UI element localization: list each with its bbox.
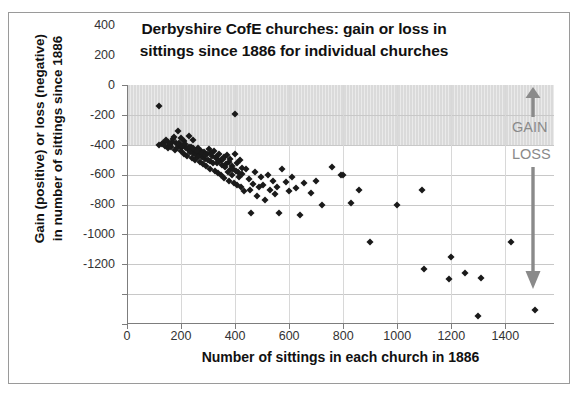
chart-figure: Derbyshire CofE churches: gain or loss i… <box>8 12 570 384</box>
y-tick <box>122 145 127 146</box>
data-point <box>300 179 307 186</box>
data-point <box>356 186 363 193</box>
y-tick <box>122 85 127 86</box>
y-tick-label--200: -200 <box>90 108 115 122</box>
y-axis-tick-labels: 4002000-200-400-600-800-1000-1200 <box>53 25 115 264</box>
gridline-x <box>235 85 236 324</box>
x-tick-label-800: 800 <box>333 329 354 343</box>
gridline-x <box>505 85 506 324</box>
data-point <box>329 164 336 171</box>
data-point <box>367 238 374 245</box>
x-tick-label-600: 600 <box>279 329 300 343</box>
data-point <box>264 171 271 178</box>
y-tick-label-400: 400 <box>94 18 115 32</box>
gridline-x <box>181 85 182 324</box>
data-point <box>475 312 482 319</box>
data-point <box>394 201 401 208</box>
data-point <box>292 185 299 192</box>
gridline-x <box>289 85 290 324</box>
data-point <box>461 270 468 277</box>
data-point <box>532 306 539 313</box>
data-point <box>507 238 514 245</box>
x-axis-tick-labels: 0200400600800100012001400 <box>127 329 554 347</box>
y-tick-label--400: -400 <box>90 138 115 152</box>
data-point <box>448 253 455 260</box>
gridline-x <box>343 85 344 324</box>
data-point <box>254 192 261 199</box>
gridline-x <box>451 85 452 324</box>
data-point <box>269 177 276 184</box>
loss-annotation-label: LOSS <box>512 146 551 162</box>
gridline-y <box>127 205 554 206</box>
plot-area <box>127 85 554 324</box>
y-tick <box>122 205 127 206</box>
x-tick-label-1200: 1200 <box>437 329 465 343</box>
gridline-y <box>127 294 554 295</box>
data-point <box>262 196 269 203</box>
y-tick <box>122 175 127 176</box>
data-point <box>296 211 303 218</box>
y-tick <box>122 294 127 295</box>
data-point <box>421 265 428 272</box>
chart-title-line-1: Derbyshire CofE churches: gain or loss i… <box>59 18 529 40</box>
data-point <box>418 187 425 194</box>
x-tick-label-0: 0 <box>124 329 131 343</box>
data-point <box>279 166 286 173</box>
data-point <box>307 189 314 196</box>
y-tick-label--1200: -1200 <box>83 257 115 271</box>
chart-title: Derbyshire CofE churches: gain or loss i… <box>59 18 529 62</box>
y-tick <box>122 115 127 116</box>
chart-title-line-2: sittings since 1886 for individual churc… <box>59 40 529 62</box>
y-tick-label--600: -600 <box>90 167 115 181</box>
x-tick-label-200: 200 <box>171 329 192 343</box>
y-tick <box>122 234 127 235</box>
y-axis-line <box>127 85 128 324</box>
data-point <box>275 209 282 216</box>
x-axis-line <box>127 323 554 324</box>
plot-region <box>119 73 556 332</box>
gain-up-arrow-icon <box>525 87 541 117</box>
data-point <box>272 190 279 197</box>
y-tick-label-0: 0 <box>108 78 115 92</box>
y-axis-title-line-1: Gain (positive) or loss (negative) <box>31 9 49 269</box>
data-point <box>318 201 325 208</box>
data-point <box>286 188 293 195</box>
gridline-y <box>127 234 554 235</box>
gridline-y <box>127 115 554 116</box>
loss-down-arrow-icon <box>525 167 541 289</box>
data-point <box>477 275 484 282</box>
y-tick-label-200: 200 <box>94 48 115 62</box>
gridline-y <box>127 264 554 265</box>
y-tick-label--1000: -1000 <box>83 227 115 241</box>
gain-annotation-label: GAIN <box>512 119 547 135</box>
data-point <box>232 150 239 157</box>
x-tick-label-1000: 1000 <box>383 329 411 343</box>
x-axis-title: Number of sittings in each church in 188… <box>127 349 554 365</box>
data-point <box>248 209 255 216</box>
y-tick <box>122 264 127 265</box>
x-tick-label-400: 400 <box>225 329 246 343</box>
x-tick-label-1400: 1400 <box>491 329 519 343</box>
y-tick-label--800: -800 <box>90 197 115 211</box>
data-point <box>313 178 320 185</box>
